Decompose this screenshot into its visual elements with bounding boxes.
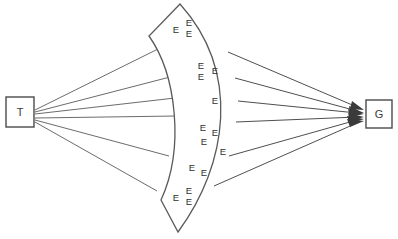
- right-edge-5: [229, 120, 357, 156]
- node-goal-label: G: [375, 108, 384, 120]
- node-goal[interactable]: G: [366, 100, 392, 128]
- expert-label: E: [189, 162, 195, 173]
- expert-label: E: [201, 136, 207, 147]
- right-edge-4: [236, 117, 357, 122]
- expert-label: E: [173, 24, 179, 35]
- expert-label: E: [212, 65, 218, 76]
- expert-label: E: [186, 185, 192, 196]
- node-source[interactable]: T: [6, 97, 34, 127]
- left-edge-4: [35, 116, 176, 118]
- node-source-label: T: [17, 106, 24, 118]
- right-edge-2: [235, 78, 357, 111]
- expert-label: E: [200, 122, 206, 133]
- expert-label: E: [212, 127, 218, 138]
- expert-label: E: [186, 196, 192, 207]
- right-edge-group: [214, 52, 364, 186]
- left-edge-1: [35, 48, 160, 110]
- expert-label: E: [201, 167, 207, 178]
- right-edge-1: [228, 52, 357, 107]
- expert-label: E: [220, 146, 226, 157]
- diagram-svg: E E E E E E E E E E E E E E E E T G: [0, 0, 398, 239]
- expert-label: E: [186, 28, 192, 39]
- diagram-canvas: E E E E E E E E E E E E E E E E T G: [0, 0, 398, 239]
- left-edge-2: [35, 77, 170, 112]
- expert-label: E: [186, 17, 192, 28]
- left-edge-group: [35, 48, 176, 191]
- left-edge-5: [35, 120, 169, 156]
- left-edge-3: [35, 98, 175, 114]
- right-edge-3: [238, 101, 357, 113]
- expert-label: E: [198, 60, 204, 71]
- expert-label: E: [212, 95, 218, 106]
- expert-label: E: [198, 71, 204, 82]
- expert-label: E: [173, 192, 179, 203]
- left-edge-6: [35, 122, 157, 191]
